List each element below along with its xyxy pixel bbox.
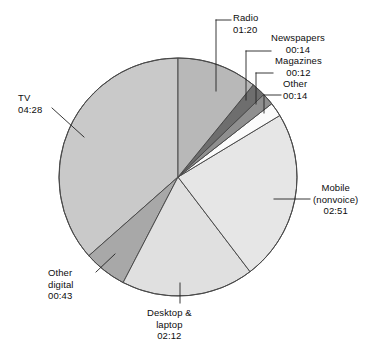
label-other: Other 00:14 [283,78,307,101]
label-other-digital: Other digital 00:43 [48,267,74,302]
label-newspapers: Newspapers 00:14 [271,32,325,55]
label-radio-value: 01:20 [233,24,258,36]
label-desktop-sub: laptop [147,319,192,331]
label-desktop-name: Desktop & [147,307,192,319]
label-newspapers-name: Newspapers [271,32,325,44]
label-magazines-value: 00:12 [275,67,322,79]
label-desktop: Desktop & laptop 02:12 [147,307,192,342]
label-newspapers-value: 00:14 [271,44,325,56]
label-mobile-name: Mobile [313,182,358,194]
label-desktop-value: 02:12 [147,330,192,342]
label-mobile-value: 02:51 [313,205,358,217]
label-magazines-name: Magazines [275,55,322,67]
label-radio-name: Radio [233,12,258,24]
label-tv: TV 04:28 [18,92,42,115]
label-mobile-sub: (nonvoice) [313,194,358,206]
pie-chart: Radio 01:20 Newspapers 00:14 Magazines 0… [0,0,367,359]
label-other-digital-sub: digital [48,279,74,291]
label-other-digital-name: Other [48,267,74,279]
label-other-value: 00:14 [283,90,307,102]
label-other-digital-value: 00:43 [48,290,74,302]
label-mobile: Mobile (nonvoice) 02:51 [313,182,358,217]
label-tv-value: 04:28 [18,104,42,116]
label-tv-name: TV [18,92,42,104]
label-radio: Radio 01:20 [233,12,258,35]
pie-slices [59,58,297,296]
label-other-name: Other [283,78,307,90]
label-magazines: Magazines 00:12 [275,55,322,78]
